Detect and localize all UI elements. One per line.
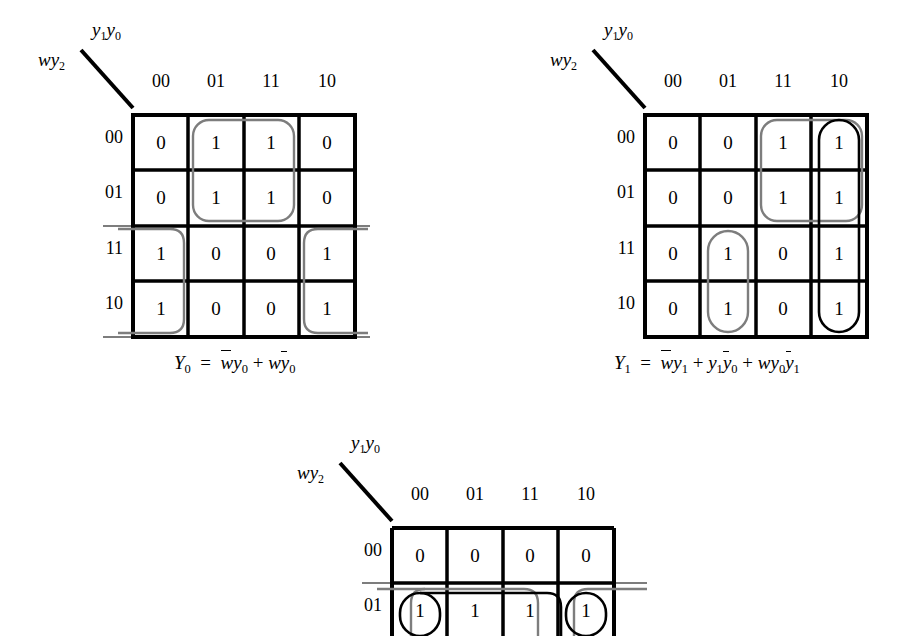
col-header-0: 00	[664, 71, 682, 91]
column-headers: 00 01 11 10	[411, 484, 595, 504]
row-axis-label: wy2	[38, 49, 65, 73]
cell-r2c1: 1	[723, 243, 733, 264]
row-header-0: 00	[364, 540, 382, 560]
row-header-3: 10	[105, 293, 123, 313]
cell-r3c3: 1	[322, 298, 332, 319]
cell-r0c3: 0	[322, 132, 332, 153]
row-header-0: 00	[617, 127, 635, 147]
cell-r3c2: 0	[778, 298, 788, 319]
col-axis-label: y1y0	[349, 432, 380, 456]
col-header-0: 00	[411, 484, 429, 504]
kmap-y2: y1y0 wy2 00 01 11 10 00 01	[289, 423, 649, 636]
cell-r1c3: 1	[581, 600, 591, 621]
row-axis-label: wy2	[297, 462, 324, 486]
column-headers: 00 01 11 10	[152, 71, 336, 91]
row-header-3: 10	[617, 293, 635, 313]
col-header-2: 11	[774, 71, 791, 91]
cell-r1c2: 1	[778, 187, 788, 208]
row-header-1: 01	[105, 182, 123, 202]
cell-r0c0: 0	[668, 132, 678, 153]
cell-r2c2: 0	[778, 243, 788, 264]
axis-divider-line	[81, 50, 133, 108]
cell-r3c3: 1	[834, 298, 844, 319]
row-headers: 00 01	[364, 540, 382, 615]
cell-r0c1: 0	[470, 545, 480, 566]
cell-r1c2: 1	[525, 600, 535, 621]
formula-y0-text: Y0 = wy0 + wy0	[174, 352, 296, 373]
col-header-1: 01	[466, 484, 484, 504]
row-axis-label: wy2	[550, 49, 577, 73]
axis-divider-line	[593, 50, 645, 108]
row-header-2: 11	[106, 238, 123, 258]
cell-r2c0: 0	[668, 243, 678, 264]
col-axis-label: y1y0	[90, 19, 121, 43]
cell-r0c2: 1	[778, 132, 788, 153]
cell-r2c3: 1	[322, 243, 332, 264]
cell-r0c1: 1	[211, 132, 221, 153]
row-headers: 00 01 11 10	[617, 127, 635, 313]
col-header-2: 11	[521, 484, 538, 504]
col-axis-label: y1y0	[602, 19, 633, 43]
row-header-1: 01	[364, 595, 382, 615]
formula-y1-text: Y1 = wy1 + y1y0 + wy0y1	[614, 352, 800, 373]
formula-y1: Y1 = wy1 + y1y0 + wy0y1	[614, 352, 800, 377]
cell-r2c0: 1	[156, 243, 166, 264]
formula-y0: Y0 = wy0 + wy0	[174, 352, 296, 377]
kmap-y1: y1y0 wy2 00 01 11 10 00 01 11 10	[542, 10, 921, 340]
cell-r0c2: 0	[525, 545, 535, 566]
cell-r1c3: 0	[322, 187, 332, 208]
row-header-1: 01	[617, 182, 635, 202]
cell-r2c2: 0	[266, 243, 276, 264]
cell-r1c1: 0	[723, 187, 733, 208]
cell-r0c0: 0	[156, 132, 166, 153]
cell-r2c1: 0	[211, 243, 221, 264]
kmap-y1-canvas: y1y0 wy2 00 01 11 10 00 01 11 10	[542, 10, 921, 340]
col-header-1: 01	[207, 71, 225, 91]
cell-r3c2: 0	[266, 298, 276, 319]
axis-divider-line	[340, 463, 392, 521]
cell-r1c3: 1	[834, 187, 844, 208]
col-header-3: 10	[577, 484, 595, 504]
cell-r1c0: 0	[668, 187, 678, 208]
cell-r0c2: 1	[266, 132, 276, 153]
col-header-0: 00	[152, 71, 170, 91]
col-header-3: 10	[318, 71, 336, 91]
row-header-2: 11	[618, 238, 635, 258]
cell-r0c3: 0	[581, 545, 591, 566]
cell-r1c2: 1	[266, 187, 276, 208]
col-header-1: 01	[719, 71, 737, 91]
col-header-3: 10	[830, 71, 848, 91]
column-headers: 00 01 11 10	[664, 71, 848, 91]
cell-r1c0: 0	[156, 187, 166, 208]
cell-r1c0: 1	[415, 600, 425, 621]
col-header-2: 11	[262, 71, 279, 91]
row-headers: 00 01 11 10	[105, 127, 123, 313]
kmap-y2-canvas: y1y0 wy2 00 01 11 10 00 01	[289, 423, 649, 636]
cell-r2c3: 1	[834, 243, 844, 264]
cell-r0c0: 0	[415, 545, 425, 566]
cell-r3c1: 0	[211, 298, 221, 319]
kmap-y0: y1y0 wy2 00 01 11 10 00 01 11 10	[30, 10, 370, 340]
cell-r3c1: 1	[723, 298, 733, 319]
row-header-0: 00	[105, 127, 123, 147]
cell-r1c1: 1	[470, 600, 480, 621]
cell-r3c0: 0	[668, 298, 678, 319]
kmap-y0-canvas: y1y0 wy2 00 01 11 10 00 01 11 10	[30, 10, 370, 340]
cell-r0c1: 0	[723, 132, 733, 153]
cell-r3c0: 1	[156, 298, 166, 319]
cell-r0c3: 1	[834, 132, 844, 153]
cell-r1c1: 1	[211, 187, 221, 208]
